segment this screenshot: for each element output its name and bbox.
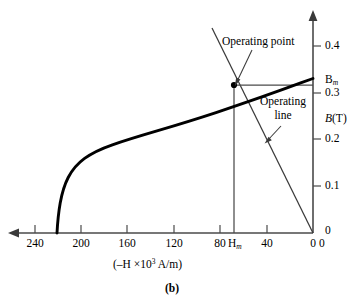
x-tick-label-40: 40 (247, 238, 287, 250)
x-axis-title-suffix: A/m) (156, 258, 183, 270)
x-tick-label-240: 240 (15, 238, 55, 250)
y-tick-label-0-2: 0.2 (325, 133, 339, 145)
x-axis-title-exponent: 3 (152, 257, 156, 266)
operating-line-path (212, 28, 313, 233)
operating-point-leader-arrow (235, 50, 252, 86)
x-tick-label-160: 160 (107, 238, 147, 250)
x-axis-arrow-icon (8, 229, 19, 238)
figure-container: 240 200 160 120 80 40 0 Hm 0.4 0.3 0.2 0… (0, 0, 360, 305)
hm-axis-label: Hm (228, 238, 242, 250)
y-tick-label-0-1: 0.1 (325, 180, 339, 192)
y-axis-arrow-icon (309, 10, 318, 21)
hm-subscript: m (236, 242, 241, 251)
x-axis-title-prefix: (–H ×10 (113, 258, 152, 270)
x-tick-label-0: 0 (293, 238, 333, 250)
origin-zero-label: 0 (319, 238, 325, 250)
panel-label: (b) (165, 283, 179, 295)
x-tick-label-120: 120 (154, 238, 194, 250)
y-tick-label-0: 0 (325, 225, 331, 237)
x-tick-label-200: 200 (61, 238, 101, 250)
y-tick-label-0-3: 0.3 (325, 87, 339, 99)
y-tick-label-0-4: 0.4 (325, 40, 339, 52)
bm-subscript: m (333, 78, 338, 87)
bm-symbol: B (325, 73, 333, 85)
y-axis-symbol: B (325, 112, 332, 124)
operating-point-annotation: Operating point (222, 36, 295, 48)
operating-line-annotation-line2: line (250, 110, 316, 122)
operating-line-leader-arrow (265, 126, 281, 144)
x-axis-title: (–H ×103 A/m) (113, 259, 182, 271)
y-axis-title: B(T) (325, 113, 347, 125)
bm-axis-label: Bm (325, 74, 338, 86)
y-axis (309, 10, 318, 233)
x-axis-ticks (35, 225, 267, 233)
operating-line-annotation-line1: Operating (250, 96, 316, 108)
y-axis-unit: (T) (332, 112, 347, 124)
